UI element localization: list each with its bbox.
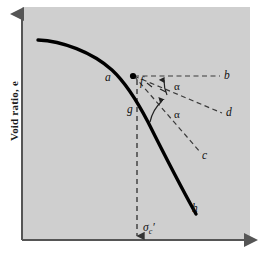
label-point-h: h [192, 203, 198, 215]
label-point-f: f [140, 76, 143, 88]
label-point-a: a [105, 72, 111, 84]
label-point-d: d [226, 107, 232, 119]
consolidation-figure: Void ratio, e a f g b d c h α α σc′ [0, 0, 265, 269]
consolidation-curve-svg [0, 0, 265, 269]
label-alpha-upper: α [174, 81, 180, 92]
label-point-c: c [202, 150, 207, 162]
label-point-b: b [224, 70, 230, 82]
sigma-prime-glyph: ′ [152, 221, 155, 233]
label-point-g: g [127, 104, 133, 116]
consolidation-curve [38, 40, 196, 214]
label-alpha-lower: α [174, 109, 180, 120]
y-axis-label: Void ratio, e [8, 51, 20, 171]
label-sigma-c-prime: σc′ [143, 222, 155, 236]
